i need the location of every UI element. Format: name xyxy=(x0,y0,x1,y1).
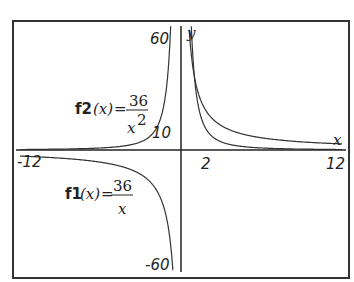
f2-exponent: 2 xyxy=(137,111,147,129)
f2-func-name: f2 xyxy=(75,100,92,118)
y-tick-neg60: -60 xyxy=(145,256,170,274)
x-tick-neg12: -12 xyxy=(17,153,42,171)
x-tick-12: 12 xyxy=(326,155,345,173)
y-axis-label: y xyxy=(186,24,196,42)
f1-denominator: x xyxy=(118,200,127,218)
f1-label: f1 (x) = 36 x xyxy=(65,177,133,218)
f2-eq: = xyxy=(114,100,127,118)
f1-func-arg: (x) xyxy=(80,185,100,203)
f2-denominator: x xyxy=(127,119,136,137)
f2-func-arg: (x) xyxy=(93,100,113,118)
f2-label: f2 (x) = 36 x 2 xyxy=(75,92,148,137)
graph-canvas: 60 10 -60 -12 2 12 y x f2 (x) = 36 x 2 f… xyxy=(0,0,354,282)
y-tick-10: 10 xyxy=(152,124,171,142)
x-tick-2: 2 xyxy=(201,155,211,173)
f1-eq: = xyxy=(101,185,114,203)
x-axis-label: x xyxy=(333,131,342,149)
f2-numerator: 36 xyxy=(129,92,148,110)
y-tick-60: 60 xyxy=(150,30,169,48)
f1-numerator: 36 xyxy=(113,177,132,195)
